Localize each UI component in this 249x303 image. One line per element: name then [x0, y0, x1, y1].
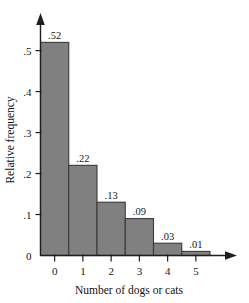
x-tick-label-4: 4	[165, 265, 171, 277]
x-axis-title: Number of dogs or cats	[75, 284, 183, 297]
x-tick-label-3: 3	[137, 265, 143, 277]
bar-1	[69, 165, 97, 255]
x-tick-label-5: 5	[193, 265, 199, 277]
x-tick-label-2: 2	[108, 265, 114, 277]
bar-3	[125, 219, 153, 256]
y-tick-label-.5: .5	[23, 45, 32, 57]
relative-frequency-histogram: .52.22.13.09.03.01 0.1.2.3.4.5 012345 Nu…	[0, 0, 249, 303]
bar-value-label-1: .22	[76, 153, 89, 164]
bar-value-label-5: .01	[189, 239, 202, 250]
x-tick-label-1: 1	[80, 265, 86, 277]
bar-value-label-4: .03	[161, 231, 174, 242]
bar-value-label-2: .13	[105, 190, 118, 201]
y-tick-label-.4: .4	[23, 86, 32, 98]
y-tick-label-.3: .3	[23, 127, 32, 139]
y-tick-label-.2: .2	[23, 168, 31, 180]
chart-background	[0, 0, 249, 303]
x-tick-label-0: 0	[52, 265, 58, 277]
bar-0	[41, 42, 69, 255]
y-axis-title: Relative frequency	[4, 96, 17, 183]
chart-canvas: .52.22.13.09.03.01 0.1.2.3.4.5 012345 Nu…	[0, 0, 249, 303]
bar-value-label-3: .09	[133, 206, 146, 217]
bar-value-label-0: .52	[48, 30, 61, 41]
y-tick-label-.1: .1	[23, 209, 31, 221]
bar-4	[154, 243, 182, 255]
y-tick-label-0: 0	[26, 250, 32, 262]
bar-2	[97, 202, 125, 255]
